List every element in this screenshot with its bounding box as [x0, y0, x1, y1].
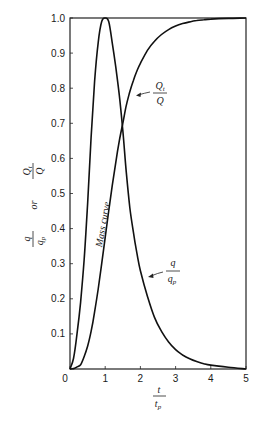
- arrowhead-icon: [136, 93, 141, 98]
- y-tick-label: 0.2: [51, 293, 65, 304]
- ann-qp: qp: [168, 273, 177, 286]
- hydrograph-curve: [70, 18, 246, 369]
- x-tick-label: 4: [208, 373, 214, 384]
- y-label-or: or: [28, 200, 39, 209]
- dimensionless-hydrograph-chart: 0.10.20.30.40.50.60.70.80.91.0 012345 q …: [0, 0, 259, 422]
- annotation-flow-ratio: q qp: [148, 257, 180, 286]
- mass-curve-label: Mass curve: [93, 200, 112, 249]
- ann-q: q: [171, 257, 176, 268]
- plot-frame: [70, 18, 246, 369]
- y-tick-label: 0.3: [51, 258, 65, 269]
- y-tick-label: 0.5: [51, 188, 65, 199]
- y-tick-label: 0.4: [51, 223, 65, 234]
- x-label-tp: tp: [155, 398, 162, 411]
- y-tick-label: 0.1: [51, 328, 65, 339]
- y-axis-label: q qp or Qt Q: [21, 163, 47, 247]
- x-tick-label: 0: [62, 373, 68, 384]
- x-axis-label: t tp: [153, 384, 166, 411]
- y-tick-label: 0.9: [51, 48, 65, 59]
- y-tick-label: 0.6: [51, 153, 65, 164]
- ann-Q: Q: [156, 95, 164, 106]
- mass-curve: [70, 18, 246, 369]
- annotation-mass-ratio: Qt Q: [136, 80, 167, 106]
- y-label-qp: qp: [34, 236, 47, 245]
- x-tick-label: 2: [138, 373, 144, 384]
- x-tick-label: 5: [243, 373, 249, 384]
- y-label-Q: Q: [34, 167, 45, 175]
- ann-Qt: Qt: [155, 80, 165, 93]
- y-tick-label: 0.8: [51, 83, 65, 94]
- x-label-t: t: [158, 384, 161, 395]
- x-tick-label: 3: [173, 373, 179, 384]
- y-label-q: q: [21, 237, 32, 242]
- x-tick-label: 1: [102, 373, 108, 384]
- y-label-Qt: Qt: [21, 165, 34, 175]
- y-tick-label: 1.0: [51, 13, 65, 24]
- arrowhead-icon: [148, 274, 154, 279]
- y-tick-label: 0.7: [51, 118, 65, 129]
